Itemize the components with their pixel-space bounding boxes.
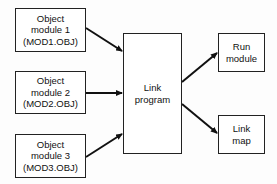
arrow-link-to-map bbox=[182, 104, 217, 133]
link-map-box: Link map bbox=[218, 115, 265, 154]
box-label-line: Run bbox=[233, 41, 250, 53]
box-label-line: program bbox=[135, 94, 170, 106]
box-label-line: Object bbox=[37, 13, 64, 25]
box-label-line: (MOD2.OBJ) bbox=[23, 98, 78, 110]
box-label-line: Link bbox=[144, 82, 161, 94]
arrow-mod1-to-link bbox=[86, 28, 122, 51]
box-label-line: module 3 bbox=[31, 150, 70, 162]
link-program-box: Link program bbox=[123, 33, 182, 154]
box-label-line: map bbox=[232, 135, 250, 147]
box-label-line: (MOD1.OBJ) bbox=[23, 36, 78, 48]
box-label-line: (MOD3.OBJ) bbox=[23, 162, 78, 174]
box-label-line: module 2 bbox=[31, 87, 70, 99]
arrow-link-to-run bbox=[182, 53, 217, 82]
box-label-line: Object bbox=[37, 139, 64, 151]
box-label-line: Object bbox=[37, 75, 64, 87]
object-module-2-box: Object module 2 (MOD2.OBJ) bbox=[15, 71, 86, 114]
run-module-box: Run module bbox=[218, 33, 265, 72]
arrow-mod3-to-link bbox=[86, 134, 122, 157]
link-process-diagram: Object module 1 (MOD1.OBJ) Object module… bbox=[0, 0, 277, 184]
box-label-line: module 1 bbox=[31, 24, 70, 36]
object-module-3-box: Object module 3 (MOD3.OBJ) bbox=[15, 134, 86, 178]
box-label-line: Link bbox=[233, 123, 250, 135]
box-label-line: module bbox=[226, 53, 257, 65]
object-module-1-box: Object module 1 (MOD1.OBJ) bbox=[15, 8, 86, 52]
